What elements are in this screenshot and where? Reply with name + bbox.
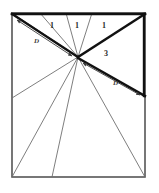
geometry-diagram — [0, 0, 159, 193]
dimension-label-d-lower-right: D — [113, 80, 118, 87]
dimension-arrow-lower-right — [83, 63, 140, 95]
ray-to-left-edge — [12, 57, 78, 98]
figure-canvas: 1 1 1 3 D D — [0, 0, 159, 193]
segment-label-1-middle: 1 — [75, 22, 79, 30]
region-label-3: 3 — [104, 50, 108, 58]
outer-square-border — [12, 13, 145, 177]
segment-label-1-right: 1 — [102, 22, 106, 30]
dimension-label-d-upper-left: D — [34, 38, 39, 45]
dimension-arrow-upper-left — [17, 20, 72, 56]
ray-to-bottom-edge — [52, 57, 78, 177]
thick-diagonal-upper-right — [78, 14, 145, 57]
thin-ray-group — [12, 13, 145, 177]
ray-to-bottom-left-corner — [12, 57, 78, 177]
ray-to-bottom-right-corner — [78, 57, 145, 177]
thick-diagonal-lower-right — [78, 58, 145, 96]
segment-label-1-left: 1 — [50, 22, 54, 30]
